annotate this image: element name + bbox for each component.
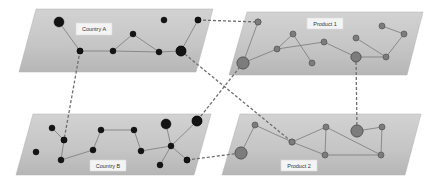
network-node bbox=[274, 46, 280, 52]
multilayer-network-diagram: Country AProduct 1Country BProduct 2 bbox=[0, 0, 438, 185]
network-node bbox=[351, 125, 363, 137]
network-node bbox=[98, 127, 104, 133]
network-node bbox=[323, 124, 329, 130]
plane-country-b: Country B bbox=[16, 114, 211, 175]
plane-label: Country A bbox=[82, 26, 106, 32]
plane-surface bbox=[222, 114, 421, 175]
network-node bbox=[161, 119, 171, 129]
network-node bbox=[77, 48, 83, 54]
network-node bbox=[290, 31, 296, 37]
plane-label: Product 1 bbox=[313, 21, 337, 27]
network-node bbox=[351, 52, 361, 62]
network-node bbox=[237, 57, 249, 69]
network-node bbox=[130, 31, 136, 37]
interlayer-link bbox=[197, 63, 243, 121]
network-node bbox=[161, 17, 167, 23]
network-node bbox=[61, 137, 67, 143]
network-node bbox=[383, 54, 389, 60]
network-node bbox=[33, 149, 39, 155]
network-node bbox=[235, 147, 247, 159]
network-node bbox=[321, 39, 327, 45]
network-node bbox=[378, 152, 384, 158]
network-node bbox=[156, 49, 162, 55]
network-node bbox=[401, 31, 407, 37]
network-node bbox=[49, 125, 55, 131]
network-node bbox=[379, 23, 385, 29]
network-node bbox=[255, 19, 261, 25]
plane-country-a: Country A bbox=[19, 9, 213, 72]
network-node bbox=[110, 48, 116, 54]
plane-product-2: Product 2 bbox=[222, 114, 421, 175]
plane-label: Country B bbox=[96, 163, 121, 169]
network-node bbox=[379, 124, 385, 130]
network-node bbox=[195, 17, 201, 23]
network-node bbox=[192, 116, 202, 126]
network-node bbox=[309, 60, 315, 66]
network-node bbox=[58, 157, 64, 163]
network-node bbox=[168, 143, 174, 149]
network-node bbox=[131, 127, 137, 133]
plane-label: Product 2 bbox=[287, 163, 311, 169]
network-node bbox=[138, 148, 144, 154]
network-node bbox=[252, 122, 258, 128]
network-node bbox=[54, 17, 64, 27]
network-node bbox=[184, 157, 190, 163]
network-node bbox=[157, 162, 163, 168]
network-node bbox=[322, 152, 328, 158]
network-node bbox=[90, 147, 96, 153]
network-node bbox=[289, 139, 295, 145]
network-node bbox=[353, 35, 359, 41]
network-node bbox=[176, 46, 186, 56]
plane-surface bbox=[19, 9, 213, 72]
